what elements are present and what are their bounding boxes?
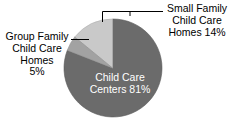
slice-label-line-3: Homes 14% bbox=[164, 27, 230, 39]
slice-label-line-4: 5% bbox=[3, 66, 71, 78]
slice-label-child-care-centers: Child Care Centers 81% bbox=[82, 71, 158, 95]
slice-label-line-1: Child Care bbox=[82, 71, 158, 83]
slice-label-line-2: Centers 81% bbox=[82, 83, 158, 95]
slice-label-small-family-child-care-homes: Small Family Child Care Homes 14% bbox=[164, 3, 230, 38]
pie-chart-figure: Small Family Child Care Homes 14% Group … bbox=[0, 0, 231, 122]
slice-label-line-2: Child Care bbox=[164, 15, 230, 27]
slice-label-group-family-child-care-homes: Group Family Child Care Homes 5% bbox=[3, 31, 71, 78]
slice-label-line-2: Child Care bbox=[3, 43, 71, 55]
